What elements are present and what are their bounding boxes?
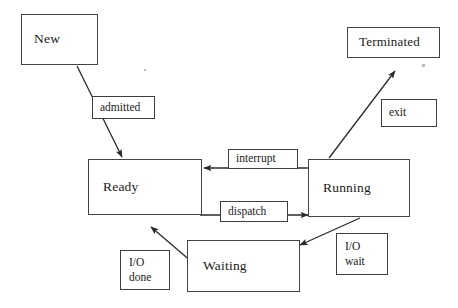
state-label-waiting: Waiting bbox=[188, 259, 299, 274]
state-label-ready: Ready bbox=[89, 180, 201, 195]
transition-label-io-done[interactable]: I/O done bbox=[120, 250, 170, 290]
state-node-waiting[interactable]: Waiting bbox=[187, 240, 300, 292]
transition-label-dispatch-text: dispatch bbox=[221, 205, 287, 218]
state-node-terminated[interactable]: Terminated bbox=[347, 27, 440, 58]
transition-label-interrupt[interactable]: interrupt bbox=[228, 149, 298, 169]
transition-label-interrupt-text: interrupt bbox=[229, 152, 297, 165]
transition-label-exit-text: exit bbox=[382, 106, 436, 119]
state-node-ready[interactable]: Ready bbox=[88, 159, 202, 215]
state-label-new: New bbox=[22, 32, 97, 47]
transition-label-io-wait[interactable]: I/O wait bbox=[336, 233, 388, 275]
state-label-terminated: Terminated bbox=[348, 35, 439, 49]
state-node-new[interactable]: New bbox=[21, 14, 98, 65]
state-label-running: Running bbox=[309, 181, 409, 196]
state-node-running[interactable]: Running bbox=[308, 159, 410, 217]
transition-label-dispatch[interactable]: dispatch bbox=[220, 201, 288, 222]
scan-speck bbox=[422, 64, 425, 67]
process-state-diagram: New Ready Running Terminated Waiting adm… bbox=[0, 0, 458, 308]
transition-label-io-wait-text: I/O wait bbox=[337, 239, 387, 268]
transition-label-admitted-text: admitted bbox=[93, 101, 154, 114]
transition-label-admitted[interactable]: admitted bbox=[92, 96, 155, 119]
transition-label-exit[interactable]: exit bbox=[381, 99, 437, 127]
scan-speck bbox=[144, 69, 146, 71]
transition-label-io-done-text: I/O done bbox=[121, 255, 169, 284]
